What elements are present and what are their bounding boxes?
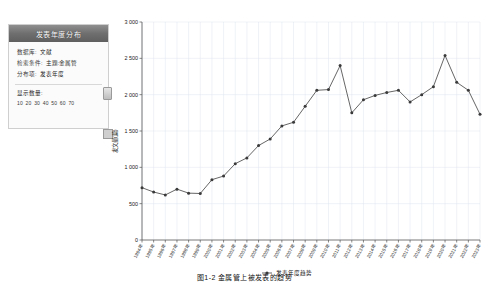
param-value-distribution: 发表年度 [40, 71, 64, 77]
year-distribution-chart: 05001 0001 5002 0002 5003 000发文量(篇)1994年… [108, 10, 484, 282]
data-point[interactable] [245, 156, 248, 159]
param-row-query: 检索条件: 主题:金属管 [9, 58, 108, 69]
param-label-query: 检索条件: [17, 60, 43, 66]
data-point[interactable] [175, 188, 178, 191]
data-point[interactable] [467, 89, 470, 92]
y-axis-tick-label: 2 000 [125, 92, 139, 98]
y-axis-title: 发文量(篇) [111, 129, 119, 153]
panel-body: 数据库: 文献 检索条件: 主题:金属管 分布项: 发表年度 显示数量: 10 … [9, 42, 108, 106]
data-point[interactable] [199, 192, 202, 195]
data-point[interactable] [164, 193, 167, 196]
count-slider-group[interactable]: 显示数量: 10 20 30 40 50 60 70 [9, 85, 108, 106]
chart-svg: 05001 0001 5002 0002 5003 000发文量(篇)1994年… [108, 10, 484, 282]
data-point[interactable] [292, 121, 295, 124]
slider-tick[interactable]: 40 [43, 100, 49, 106]
data-point[interactable] [234, 162, 237, 165]
series-line-publication-trend [142, 55, 480, 195]
data-point[interactable] [350, 111, 353, 114]
count-slider-label: 显示数量: [17, 89, 108, 97]
data-point[interactable] [432, 85, 435, 88]
data-point[interactable] [397, 89, 400, 92]
data-point[interactable] [455, 81, 458, 84]
data-point[interactable] [280, 124, 283, 127]
y-axis-tick-label: 1 000 [125, 164, 139, 170]
data-point[interactable] [210, 178, 213, 181]
distribution-panel: 发表年度分布 数据库: 文献 检索条件: 主题:金属管 分布项: 发表年度 显示… [8, 24, 109, 129]
data-point[interactable] [409, 100, 412, 103]
data-point[interactable] [420, 93, 423, 96]
data-point[interactable] [479, 113, 482, 116]
panel-title: 发表年度分布 [9, 25, 108, 42]
data-point[interactable] [315, 89, 318, 92]
count-slider-ticks[interactable]: 10 20 30 40 50 60 70 [17, 100, 108, 106]
data-point[interactable] [152, 191, 155, 194]
slider-tick[interactable]: 20 [26, 100, 32, 106]
x-axis-tick-label: 2011年 [330, 243, 343, 259]
param-value-query: 主题:金属管 [46, 60, 78, 66]
data-point[interactable] [141, 186, 144, 189]
slider-tick[interactable]: 10 [17, 100, 23, 106]
param-label-database: 数据库: [17, 49, 37, 55]
data-point[interactable] [187, 192, 190, 195]
param-row-database: 数据库: 文献 [9, 47, 108, 58]
x-axis-tick-label: 2023年 [470, 243, 483, 260]
slider-tick[interactable]: 60 [60, 100, 66, 106]
figure-caption: 图1-2 金属管上被发表的趋势 [0, 272, 489, 282]
data-point[interactable] [269, 137, 272, 140]
data-point[interactable] [327, 88, 330, 91]
param-value-database: 文献 [40, 49, 52, 55]
data-point[interactable] [385, 91, 388, 94]
y-axis-tick-label: 3 000 [125, 19, 139, 25]
slider-tick[interactable]: 30 [34, 100, 40, 106]
param-row-distribution: 分布项: 发表年度 [9, 69, 108, 80]
data-point[interactable] [222, 175, 225, 178]
y-axis-tick-label: 1 500 [125, 128, 139, 134]
y-axis-tick-label: 2 500 [125, 55, 139, 61]
screenshot-root: 发表年度分布 数据库: 文献 检索条件: 主题:金属管 分布项: 发表年度 显示… [0, 0, 489, 286]
data-point[interactable] [374, 94, 377, 97]
data-point[interactable] [339, 64, 342, 67]
y-axis-tick-label: 0 [135, 237, 138, 243]
slider-tick[interactable]: 50 [51, 100, 57, 106]
x-axis-tick-label: 2010年 [318, 243, 331, 260]
param-label-distribution: 分布项: [17, 71, 37, 77]
y-axis-tick-label: 500 [129, 201, 138, 207]
data-point[interactable] [257, 144, 260, 147]
data-point[interactable] [444, 54, 447, 57]
data-point[interactable] [304, 105, 307, 108]
data-point[interactable] [362, 98, 365, 101]
slider-tick[interactable]: 70 [68, 100, 74, 106]
